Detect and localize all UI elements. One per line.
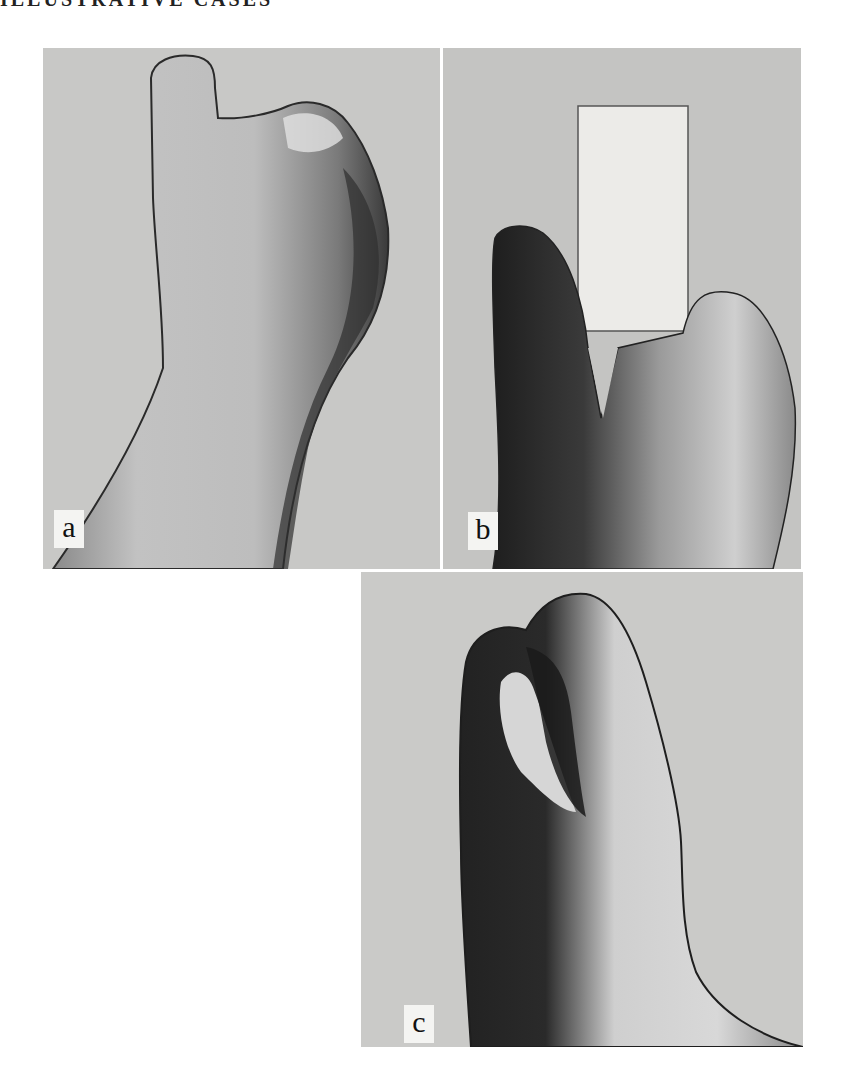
hand-photo-b: [443, 48, 801, 569]
panel-label-a: a: [54, 510, 84, 548]
figure-panel-c: c: [361, 572, 803, 1047]
hand-photo-c: [361, 572, 803, 1047]
figure-panel-a: a: [43, 48, 440, 569]
tape-roll: [578, 106, 688, 331]
panel-label-c: c: [404, 1005, 434, 1043]
figure-panel-b: b: [443, 48, 801, 569]
panel-label-b: b: [468, 512, 498, 550]
hand-photo-a: [43, 48, 440, 569]
running-header: ILLUSTRATIVE CASES: [0, 0, 273, 8]
